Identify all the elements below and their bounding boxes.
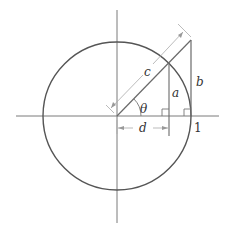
c-dimension-line-1 bbox=[111, 75, 143, 108]
label-a: a bbox=[172, 86, 179, 100]
label-d: d bbox=[139, 121, 147, 135]
right-angle-marker-b bbox=[184, 109, 191, 116]
label-unit-one: 1 bbox=[194, 121, 202, 135]
c-arrow-low bbox=[111, 102, 116, 108]
label-theta: θ bbox=[140, 102, 148, 116]
label-c: c bbox=[144, 65, 151, 79]
label-b: b bbox=[196, 75, 204, 89]
d-arrow-left bbox=[118, 126, 124, 130]
unit-circle-diagram: c a b θ d 1 bbox=[0, 0, 230, 229]
c-dimension-line-2 bbox=[153, 32, 183, 64]
right-angle-marker-a bbox=[162, 109, 169, 116]
d-arrow-right bbox=[162, 126, 168, 130]
